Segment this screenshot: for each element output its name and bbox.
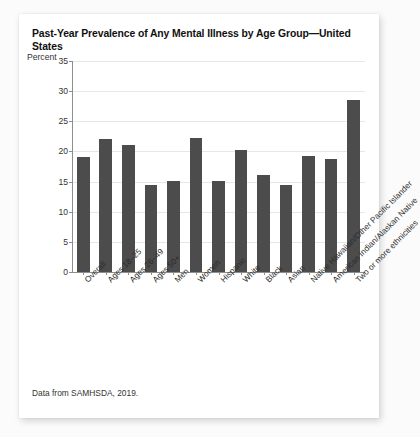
x-tick-mark <box>309 272 310 275</box>
x-tick-mark <box>151 272 152 275</box>
y-axis-label: Percent <box>27 52 57 62</box>
y-tick-mark <box>69 272 72 273</box>
y-tick-label: 5 <box>63 237 68 247</box>
bar <box>257 175 270 272</box>
x-tick-mark <box>264 272 265 275</box>
x-tick-mark <box>128 272 129 275</box>
plot-area: 05101520253035 OverallAges 18–25Ages 26–… <box>72 61 365 272</box>
bar <box>77 157 90 272</box>
x-tick-mark <box>106 272 107 275</box>
x-tick-mark <box>286 272 287 275</box>
y-tick-label: 15 <box>58 177 68 187</box>
x-tick-mark <box>331 272 332 275</box>
chart-card: Past-Year Prevalence of Any Mental Illne… <box>19 14 379 418</box>
y-tick-label: 35 <box>58 56 68 66</box>
x-tick-mark <box>354 272 355 275</box>
source-note: Data from SAMHSDA, 2019. <box>32 388 138 398</box>
y-tick-label: 25 <box>58 116 68 126</box>
bar <box>99 139 112 272</box>
chart-title: Past-Year Prevalence of Any Mental Illne… <box>32 27 372 53</box>
bar <box>190 138 203 272</box>
x-tick-mark <box>173 272 174 275</box>
x-tick-mark <box>83 272 84 275</box>
x-tick-mark <box>196 272 197 275</box>
x-tick-mark <box>219 272 220 275</box>
bar-series <box>72 61 365 272</box>
y-tick-label: 30 <box>58 86 68 96</box>
x-tick-mark <box>241 272 242 275</box>
bar <box>235 150 248 272</box>
bar <box>280 185 293 272</box>
y-tick-label: 20 <box>58 146 68 156</box>
y-tick-label: 0 <box>63 267 68 277</box>
y-tick-label: 10 <box>58 207 68 217</box>
bar <box>302 156 315 272</box>
